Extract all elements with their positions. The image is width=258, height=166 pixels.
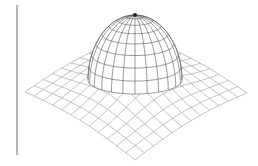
sheet-grid-line — [135, 93, 247, 160]
wireframe-surface-figure — [0, 0, 258, 166]
sheet-grid-line — [126, 87, 238, 153]
sheet-grid-line — [25, 92, 135, 160]
dome-pole-marker — [133, 13, 137, 17]
sheet-grid-line — [34, 86, 144, 153]
